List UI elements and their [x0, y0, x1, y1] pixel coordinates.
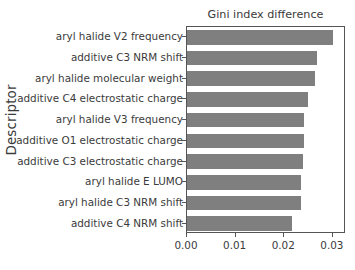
bar — [187, 113, 304, 128]
y-axis-tick-label: aryl halide C3 NRM shift — [58, 196, 183, 208]
x-axis-tick-mark — [235, 233, 236, 237]
bar-row — [187, 193, 344, 214]
y-axis-tick-label: additive O1 electrostatic charge — [16, 134, 183, 146]
bar-row — [187, 48, 344, 69]
bar — [187, 154, 303, 169]
x-axis-tick-label: 0.02 — [272, 239, 295, 251]
x-axis-tick-mark — [186, 233, 187, 237]
bar-chart-figure: Descriptor Gini index difference aryl ha… — [0, 0, 355, 270]
chart-title: Gini index difference — [186, 8, 345, 21]
bar — [187, 216, 292, 231]
bar — [187, 196, 301, 211]
bar-row — [187, 89, 344, 110]
bar-row — [187, 131, 344, 152]
y-axis-label-container: Descriptor — [0, 0, 22, 240]
y-axis-tick-label: additive C4 NRM shift — [71, 217, 183, 229]
x-axis-tick-label: 0.03 — [320, 239, 343, 251]
bar-row — [187, 172, 344, 193]
y-axis-tick-label: aryl halide E LUMO — [85, 175, 183, 187]
y-axis-tick-label: additive C3 NRM shift — [71, 51, 183, 63]
bar-row — [187, 151, 344, 172]
y-axis-label: Descriptor — [3, 84, 19, 155]
y-axis-tick-label: additive C3 electrostatic charge — [17, 155, 183, 167]
y-axis-tick-label: aryl halide molecular weight — [35, 72, 183, 84]
x-axis-tick-mark — [283, 233, 284, 237]
bar — [187, 134, 304, 149]
bar-row — [187, 68, 344, 89]
bar-row — [187, 27, 344, 48]
bar — [187, 30, 333, 45]
bar — [187, 92, 308, 107]
y-axis-tick-label: aryl halide V2 frequency — [56, 30, 183, 42]
x-axis-tick-label: 0.01 — [223, 239, 246, 251]
bar-row — [187, 213, 344, 234]
bar — [187, 51, 317, 66]
bar-row — [187, 110, 344, 131]
y-axis-tick-label: aryl halide V3 frequency — [56, 113, 183, 125]
y-axis-tick-label: additive C4 electrostatic charge — [17, 92, 183, 104]
bar — [187, 175, 301, 190]
bar-series — [187, 27, 344, 232]
x-axis-tick-label: 0.00 — [174, 239, 197, 251]
plot-axes — [186, 26, 345, 233]
x-axis-tick-mark — [332, 233, 333, 237]
bar — [187, 71, 315, 86]
